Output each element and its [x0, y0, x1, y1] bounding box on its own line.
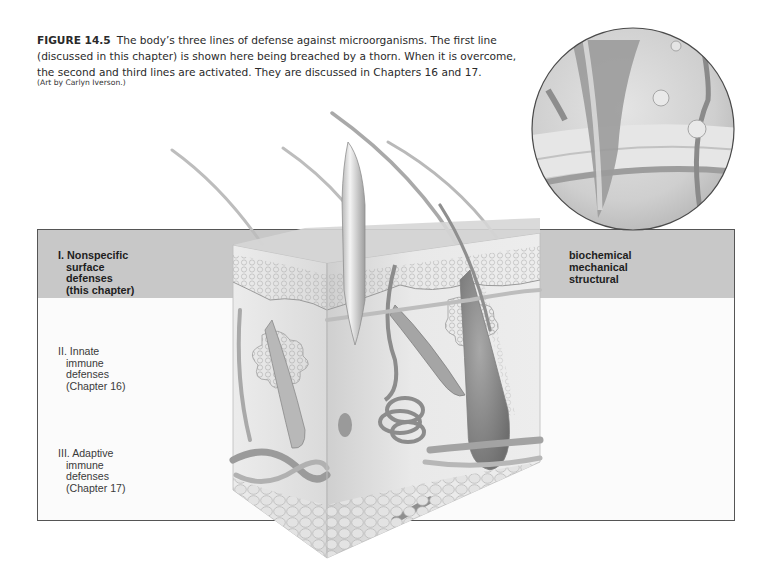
skin-block [233, 218, 540, 558]
magnified-inset [532, 28, 740, 230]
defense-line-3-label: III. Adaptive immune defenses (Chapter 1… [58, 448, 125, 494]
defense-type-mechanical: mechanical [569, 261, 631, 273]
defense-type-structural: structural [569, 273, 631, 285]
defense-type-biochemical: biochemical [569, 249, 631, 261]
defense-line-2-label: II. Innate immune defenses (Chapter 16) [58, 346, 125, 392]
surface-defense-types: biochemical mechanical structural [569, 249, 631, 285]
defense-line-1-label: I. Nonspecific surface defenses (this ch… [58, 250, 134, 296]
